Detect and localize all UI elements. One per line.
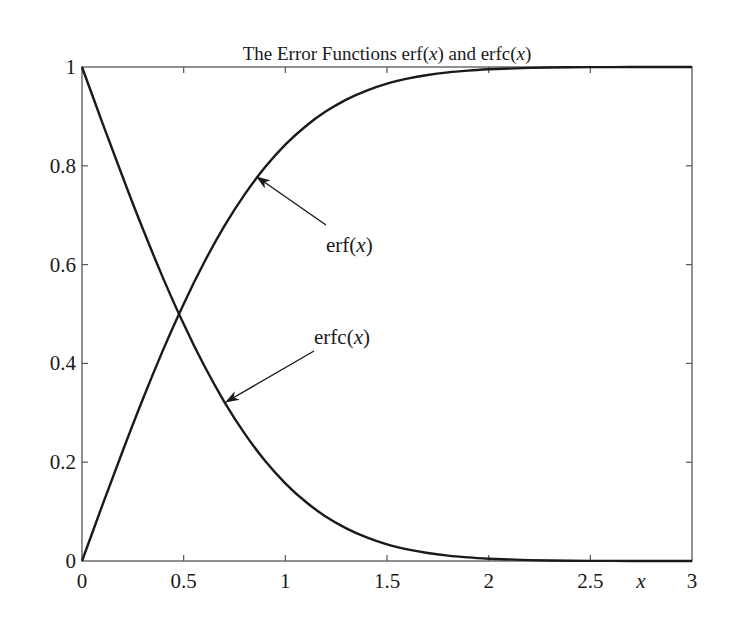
erfc-curve — [82, 67, 692, 561]
x-tick-label: 2 — [483, 569, 494, 593]
y-tick-label: 0 — [66, 549, 77, 573]
x-tick-label: 3 — [687, 569, 698, 593]
x-tick-label: 0 — [77, 569, 88, 593]
y-tick-label: 0.4 — [50, 351, 77, 375]
annotation-arrow — [226, 351, 314, 402]
y-axis-ticks: 00.20.40.60.81 — [50, 55, 692, 573]
y-tick-label: 0.6 — [50, 253, 76, 277]
x-tick-label: 1 — [280, 569, 291, 593]
annotations: erf(x)erfc(x) — [226, 177, 373, 402]
erf-curve — [82, 67, 692, 561]
y-tick-label: 1 — [66, 55, 77, 79]
y-tick-label: 0.8 — [50, 154, 76, 178]
x-tick-label: 0.5 — [171, 569, 197, 593]
chart-title: The Error Functions erf(x) and erfc(x) — [243, 43, 532, 65]
x-axis-ticks: 00.511.522.53 — [77, 67, 698, 593]
plot-area-frame — [82, 67, 692, 561]
x-tick-label: 2.5 — [577, 569, 603, 593]
annotation-label: erf(x) — [326, 233, 373, 257]
error-function-chart: The Error Functions erf(x) and erfc(x) 0… — [0, 0, 735, 631]
annotation-label: erfc(x) — [314, 325, 370, 349]
y-tick-label: 0.2 — [50, 450, 76, 474]
x-axis-label: x — [635, 569, 646, 593]
annotation-arrow — [257, 177, 326, 225]
x-tick-label: 1.5 — [374, 569, 400, 593]
